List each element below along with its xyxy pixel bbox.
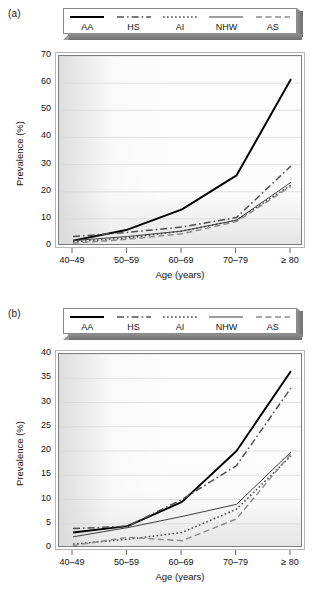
y-tick-label: 30 bbox=[29, 158, 51, 168]
y-tick-label: 20 bbox=[29, 185, 51, 195]
series-line-aa bbox=[73, 79, 291, 241]
legend-item-nhw: NHW bbox=[203, 9, 249, 33]
y-tick-label: 35 bbox=[29, 371, 51, 381]
panel-b-plot-area bbox=[55, 350, 305, 550]
x-tick-label: ≥ 80 bbox=[267, 255, 313, 265]
legend-label-ai: AI bbox=[176, 322, 185, 332]
y-tick-label: 0 bbox=[29, 541, 51, 551]
y-tick-label: 10 bbox=[29, 493, 51, 503]
legend-item-hs: HS bbox=[110, 309, 156, 333]
x-tick-label: 70–79 bbox=[213, 557, 259, 567]
y-tick-label: 60 bbox=[29, 76, 51, 86]
x-tick-label: 50–59 bbox=[104, 255, 150, 265]
legend-item-hs: HS bbox=[110, 9, 156, 33]
panel-a-plot-inner bbox=[58, 55, 302, 245]
legend-shadow-bottom bbox=[68, 334, 302, 340]
legend-box: AAHSAINHWAS bbox=[63, 308, 297, 334]
legend-line-sample-nhw bbox=[208, 12, 244, 22]
panel-b-y-axis-label: Prevalence (%) bbox=[14, 421, 25, 486]
legend-line-sample-as bbox=[255, 12, 291, 22]
y-tick-label: 10 bbox=[29, 212, 51, 222]
panel-a-letter: (a) bbox=[8, 8, 21, 19]
legend-item-ai: AI bbox=[157, 309, 203, 333]
legend-label-hs: HS bbox=[127, 22, 140, 32]
series-line-hs bbox=[73, 166, 291, 237]
panel-a-plot-area bbox=[55, 52, 305, 248]
legend-label-nhw: NHW bbox=[216, 322, 238, 332]
panel-b-plot-inner bbox=[58, 353, 302, 547]
legend-label-ai: AI bbox=[176, 22, 185, 32]
y-tick-label: 5 bbox=[29, 517, 51, 527]
legend-label-nhw: NHW bbox=[216, 22, 238, 32]
y-tick-label: 50 bbox=[29, 103, 51, 113]
legend-item-as: AS bbox=[250, 9, 296, 33]
y-tick-label: 15 bbox=[29, 468, 51, 478]
panel-b: (b) AAHSAINHWAS Prevalence (%) Age (year… bbox=[0, 300, 327, 609]
legend-line-sample-hs bbox=[116, 12, 152, 22]
legend-line-sample-hs bbox=[116, 312, 152, 322]
panel-a-line-chart bbox=[59, 56, 302, 245]
y-tick-label: 70 bbox=[29, 49, 51, 59]
legend-line-sample-nhw bbox=[208, 312, 244, 322]
legend-corner-left bbox=[63, 34, 69, 40]
legend-label-aa: AA bbox=[81, 322, 93, 332]
legend-box: AAHSAINHWAS bbox=[63, 8, 297, 34]
y-tick-label: 40 bbox=[29, 347, 51, 357]
x-tick-label: 60–69 bbox=[158, 255, 204, 265]
panel-b-x-axis-label: Age (years) bbox=[55, 571, 305, 582]
y-tick-label: 30 bbox=[29, 396, 51, 406]
x-tick-label: 50–59 bbox=[104, 557, 150, 567]
panel-a-y-axis-label: Prevalence (%) bbox=[14, 121, 25, 186]
x-tick-label: 40–49 bbox=[49, 255, 95, 265]
y-tick-label: 40 bbox=[29, 130, 51, 140]
legend-line-sample-ai bbox=[162, 312, 198, 322]
y-tick-label: 25 bbox=[29, 420, 51, 430]
legend-shadow-bottom bbox=[68, 34, 302, 40]
series-line-aa bbox=[73, 371, 291, 533]
legend-line-sample-as bbox=[255, 312, 291, 322]
legend-item-aa: AA bbox=[64, 9, 110, 33]
legend-label-aa: AA bbox=[81, 22, 93, 32]
legend-item-ai: AI bbox=[157, 9, 203, 33]
legend-label-as: AS bbox=[267, 322, 279, 332]
panel-b-legend: AAHSAINHWAS bbox=[63, 308, 305, 342]
legend-label-hs: HS bbox=[127, 322, 140, 332]
x-tick-label: 70–79 bbox=[213, 255, 259, 265]
panel-a-legend: AAHSAINHWAS bbox=[63, 8, 305, 42]
series-line-hs bbox=[73, 388, 291, 529]
panel-a: (a) AAHSAINHWAS Prevalence (%) Age (year… bbox=[0, 0, 327, 300]
legend-item-aa: AA bbox=[64, 309, 110, 333]
legend-item-nhw: NHW bbox=[203, 309, 249, 333]
x-tick-label: 40–49 bbox=[49, 557, 95, 567]
legend-line-sample-aa bbox=[69, 312, 105, 322]
panel-b-line-chart bbox=[59, 354, 302, 547]
panel-b-letter: (b) bbox=[8, 308, 21, 319]
legend-line-sample-ai bbox=[162, 12, 198, 22]
y-tick-label: 0 bbox=[29, 239, 51, 249]
panel-a-x-axis-label: Age (years) bbox=[55, 269, 305, 280]
x-tick-label: ≥ 80 bbox=[267, 557, 313, 567]
legend-item-as: AS bbox=[250, 309, 296, 333]
x-tick-label: 60–69 bbox=[158, 557, 204, 567]
legend-line-sample-aa bbox=[69, 12, 105, 22]
legend-label-as: AS bbox=[267, 22, 279, 32]
y-tick-label: 20 bbox=[29, 444, 51, 454]
